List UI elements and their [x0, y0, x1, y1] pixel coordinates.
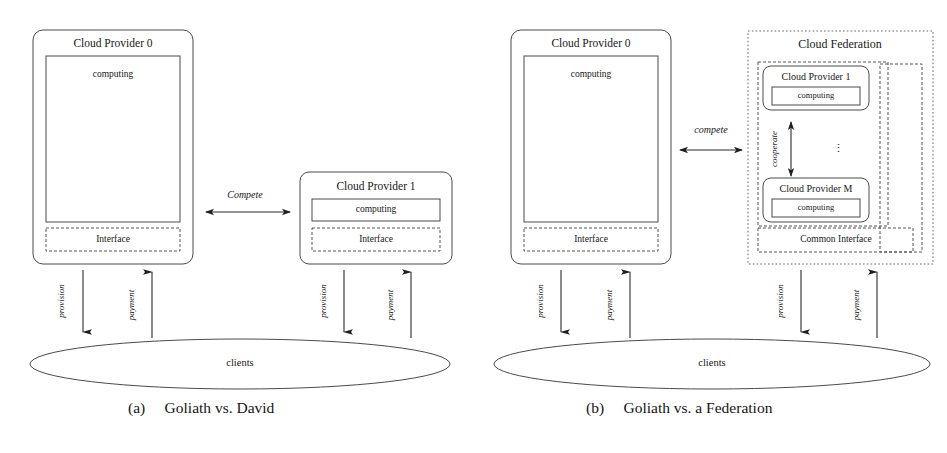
panel-a-provider1-payment-label: payment	[385, 289, 395, 321]
figure-root: Cloud Provider 0 computing Interface Com…	[0, 0, 947, 453]
panel-b-federation-payment-label: payment	[851, 289, 861, 321]
panel-b-federation-ellipsis: ⋮	[833, 142, 844, 154]
diagram-canvas: Cloud Provider 0 computing Interface Com…	[0, 0, 947, 453]
panel-b-common-interface-label: Common Interface	[800, 234, 872, 244]
panel-a-provider1-provision-label: provision	[318, 284, 328, 319]
panel-b-provider1-title: Cloud Provider 1	[782, 71, 851, 82]
panel-a-provider0-interface-label: Interface	[96, 234, 130, 244]
panel-b-federation-provision-label: provision	[775, 284, 785, 319]
panel-a-compete-label: Compete	[227, 189, 263, 200]
panel-a-provider0-computing-box[interactable]	[46, 56, 180, 222]
panel-b-provider0-computing-box[interactable]	[524, 56, 658, 222]
panel-b-caption: (b) Goliath vs. a Federation	[586, 399, 772, 417]
panel-b-provider0-computing-label: computing	[571, 69, 612, 79]
panel-a-provider1-computing-label: computing	[356, 204, 397, 214]
panel-b-providerM-computing-label: computing	[798, 202, 835, 212]
panel-a-provider1-title: Cloud Provider 1	[336, 180, 415, 192]
panel-a-provider0-title: Cloud Provider 0	[73, 37, 152, 49]
panel-b-provider0-payment-label: payment	[604, 289, 614, 321]
panel-a-provider0-computing-label: computing	[93, 69, 134, 79]
panel-a-provider0-provision-label: provision	[56, 284, 66, 319]
panel-a-provider1-interface-label: Interface	[359, 234, 393, 244]
panel-b-compete-label: compete	[694, 124, 728, 135]
panel-b-federation-title: Cloud Federation	[798, 37, 882, 51]
panel-b-federation-right-region[interactable]	[880, 64, 922, 252]
panel-a-clients-label: clients	[226, 357, 253, 368]
panel-b-provider0-title: Cloud Provider 0	[551, 37, 630, 49]
panel-b-providerM-title: Cloud Provider M	[780, 183, 853, 194]
panel-b-cooperate-label: cooperate	[769, 131, 779, 167]
panel-b-provider0-interface-label: Interface	[574, 234, 608, 244]
panel-a-provider0-payment-label: payment	[126, 289, 136, 321]
panel-b-provider0-provision-label: provision	[535, 284, 545, 319]
panel-b-provider1-computing-label: computing	[798, 90, 835, 100]
panel-b-clients-label: clients	[698, 357, 725, 368]
panel-a-caption: (a) Goliath vs. David	[128, 399, 274, 417]
